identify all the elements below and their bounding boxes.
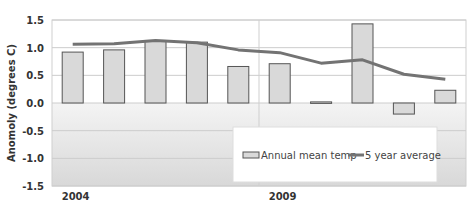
legend-swatch-bar: [243, 152, 259, 158]
x-tick-label: 2004: [62, 191, 90, 202]
legend-label-bar: Annual mean temp: [261, 150, 357, 161]
legend: Annual mean temp 5 year average: [233, 127, 441, 182]
bar: [393, 103, 414, 114]
y-axis-ticks: 1.51.00.50.0-0.5-1.0-1.5: [22, 15, 44, 192]
y-tick-label: 1.0: [26, 43, 44, 54]
y-tick-label: -0.5: [22, 126, 44, 137]
legend-label-line: 5 year average: [365, 150, 441, 161]
bar: [228, 66, 249, 103]
bar: [186, 42, 207, 103]
y-tick-label: 0.5: [26, 70, 44, 81]
bar: [311, 102, 332, 104]
bar: [145, 40, 166, 103]
x-tick-label: 2009: [269, 191, 297, 202]
y-tick-label: -1.5: [22, 181, 44, 192]
y-tick-label: 1.5: [26, 15, 44, 26]
x-axis-ticks: 20042009: [62, 191, 297, 202]
bar: [62, 52, 83, 103]
bar: [104, 50, 125, 103]
bar: [435, 90, 456, 103]
y-axis-label: Anomoly (degrees C): [6, 44, 17, 162]
chart: 1.51.00.50.0-0.5-1.0-1.5 Anomoly (degree…: [0, 0, 473, 211]
y-tick-label: 0.0: [26, 98, 44, 109]
y-tick-label: -1.0: [22, 153, 44, 164]
bar: [269, 64, 290, 103]
